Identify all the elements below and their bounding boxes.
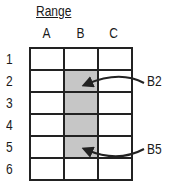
- annotation-arrows: [0, 0, 171, 190]
- arrow-b2: [87, 77, 144, 84]
- label-b5: B5: [147, 140, 162, 157]
- label-b2: B2: [147, 72, 162, 89]
- arrow-b5: [87, 149, 144, 156]
